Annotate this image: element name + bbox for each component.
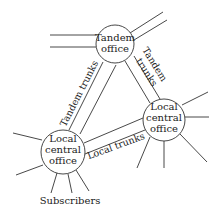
right-office-label-line2: central: [146, 112, 182, 123]
tandem-trunks-left-label: Tandem trunks: [58, 59, 101, 129]
right-office-label-line3: office: [150, 123, 178, 134]
telephone-network-diagram: Tandem office Local central office Local…: [0, 0, 219, 216]
local-trunks-label: Local trunks: [86, 130, 147, 161]
diagram-svg: Tandem office Local central office Local…: [0, 0, 219, 216]
subscribers-label: Subscribers: [40, 195, 101, 206]
tandem-office-node: Tandem office: [95, 25, 136, 63]
left-office-label-line1: Local: [49, 133, 76, 144]
tandem-office-label-line1: Tandem: [95, 32, 136, 43]
right-office-label-line1: Local: [150, 101, 177, 112]
left-office-label-line3: office: [49, 155, 77, 166]
local-office-right-node: Local central office: [143, 99, 185, 141]
local-office-left-node: Local central office: [41, 130, 85, 174]
tandem-office-label-line2: office: [101, 43, 129, 54]
left-office-label-line2: central: [45, 144, 81, 155]
